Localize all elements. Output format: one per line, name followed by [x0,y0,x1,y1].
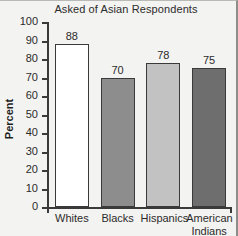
bar-chart-figure: Asked of Asian Respondents Percent 10090… [0,0,238,236]
x-axis-category-label: Blacks [95,212,141,225]
x-axis-category-label: Whites [49,212,95,225]
y-axis-tick-label: 50 [12,108,38,120]
plot-area: 1009080706050403020100 88707875 [47,22,232,209]
y-axis-tick: 40 [42,133,47,135]
y-axis-tick: 30 [42,152,47,154]
category-line-1: Blacks [95,212,141,225]
y-axis-tick-label: 90 [12,34,38,46]
x-axis-line [47,207,232,209]
bar-slot: 88 [55,22,89,207]
bar-value-label: 75 [180,54,238,66]
bar[interactable] [101,78,135,208]
category-line-1: Hispanics [141,212,187,225]
bar-slot: 75 [192,22,226,207]
y-axis-tick-label: 70 [12,71,38,83]
bar-value-label: 70 [89,64,147,76]
y-axis-tick: 50 [42,115,47,117]
y-axis-tick: 60 [42,96,47,98]
y-axis-tick-label: 20 [12,163,38,175]
category-line-1: American [186,212,232,225]
y-axis-tick: 70 [42,78,47,80]
bar-slot: 70 [101,22,135,207]
y-axis-tick-label: 0 [12,200,38,212]
y-axis-tick-label: 60 [12,89,38,101]
category-line-2: Indians [186,225,232,236]
chart-title: Asked of Asian Respondents [36,3,216,15]
y-axis-tick: 10 [42,189,47,191]
bar-group: 88707875 [49,22,232,207]
x-axis-category-labels: WhitesBlacksHispanicsAmericanIndians [47,212,232,236]
y-axis-tick-label: 40 [12,126,38,138]
y-axis-tick: 0 [42,207,47,209]
bar-slot: 78 [146,22,180,207]
bar[interactable] [192,68,226,207]
y-axis-tick-label: 80 [12,52,38,64]
bar-value-label: 88 [43,30,101,42]
bar[interactable] [55,44,89,207]
y-axis-tick-label: 10 [12,182,38,194]
x-axis-category-label: AmericanIndians [186,212,232,236]
category-line-1: Whites [49,212,95,225]
y-axis-tick: 80 [42,59,47,61]
y-axis-tick-label: 30 [12,145,38,157]
bar[interactable] [146,63,180,207]
x-axis-category-label: Hispanics [141,212,187,225]
y-axis-tick: 20 [42,170,47,172]
y-axis-tick-label: 100 [12,15,38,27]
y-axis-tick: 100 [42,22,47,24]
